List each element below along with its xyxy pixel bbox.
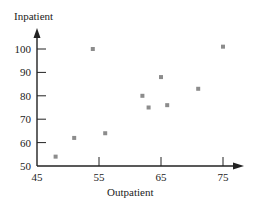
data-point bbox=[140, 94, 144, 98]
y-axis-title: Inpatient bbox=[14, 10, 53, 22]
data-point bbox=[103, 131, 107, 135]
data-point bbox=[196, 87, 200, 91]
y-axis-arrow-icon bbox=[34, 28, 41, 38]
x-tick-label: 75 bbox=[218, 171, 230, 183]
scatter-chart: 5060708090100 45556575 Inpatient Outpati… bbox=[0, 0, 258, 208]
y-tick-label: 90 bbox=[20, 66, 32, 78]
x-tick-label: 65 bbox=[156, 171, 168, 183]
data-point bbox=[221, 45, 225, 49]
x-ticks: 45556575 bbox=[32, 157, 230, 183]
x-axis-arrow-icon bbox=[233, 163, 244, 170]
y-tick-label: 100 bbox=[15, 43, 32, 55]
x-tick-label: 45 bbox=[32, 171, 44, 183]
y-tick-label: 80 bbox=[20, 90, 32, 102]
y-ticks: 5060708090100 bbox=[15, 43, 47, 172]
x-axis-title: Outpatient bbox=[107, 186, 153, 198]
y-tick-label: 50 bbox=[20, 160, 32, 172]
data-point bbox=[147, 106, 151, 110]
y-tick-label: 70 bbox=[20, 113, 32, 125]
data-point bbox=[159, 75, 163, 79]
axes bbox=[34, 28, 245, 170]
data-point bbox=[165, 103, 169, 107]
data-point bbox=[91, 47, 95, 51]
data-point bbox=[54, 155, 58, 159]
y-tick-label: 60 bbox=[20, 137, 32, 149]
data-points bbox=[54, 45, 225, 159]
x-tick-label: 55 bbox=[94, 171, 106, 183]
data-point bbox=[72, 136, 76, 140]
